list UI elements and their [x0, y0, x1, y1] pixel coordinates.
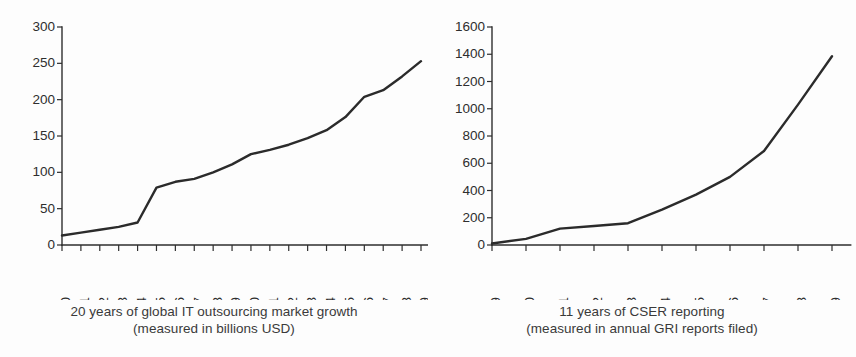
x-tick-label: 2004 — [323, 297, 338, 300]
chart-panel-cser-reporting: 0200400600800100012001400160019992000200… — [428, 0, 856, 357]
y-tick-label: 100 — [32, 164, 55, 179]
x-tick-label: 2005 — [692, 297, 707, 300]
x-tick-label: 1996 — [172, 297, 187, 300]
y-tick-label: 300 — [32, 19, 55, 34]
line-chart-cser-reporting: 0200400600800100012001400160019992000200… — [428, 0, 856, 300]
x-tick-label: 2002 — [590, 297, 605, 300]
y-tick-label: 150 — [32, 128, 55, 143]
x-tick-label: 2006 — [361, 297, 376, 300]
x-tick-label: 2007 — [380, 297, 395, 300]
x-tick-label: 2001 — [556, 297, 571, 300]
x-tick-label: 2000 — [247, 297, 262, 300]
x-tick-label: 1990 — [58, 297, 73, 300]
y-tick-label: 1600 — [455, 19, 485, 34]
figure-two-line-charts: 0501001502002503001990199119921993199419… — [0, 0, 856, 357]
x-tick-label: 1991 — [77, 297, 92, 300]
x-tick-label: 2002 — [285, 297, 300, 300]
x-tick-label: 2006 — [726, 297, 741, 300]
x-tick-label: 2007 — [760, 297, 775, 300]
y-tick-label: 800 — [462, 128, 485, 143]
y-tick-label: 50 — [40, 201, 55, 216]
y-tick-label: 200 — [462, 210, 485, 225]
x-tick-label: 2003 — [624, 297, 639, 300]
y-tick-label: 1400 — [455, 46, 485, 61]
x-tick-label: 2003 — [304, 297, 319, 300]
data-series-line — [492, 56, 832, 243]
x-tick-label: 1993 — [115, 297, 130, 300]
y-tick-label: 600 — [462, 155, 485, 170]
x-tick-label: 1995 — [153, 297, 168, 300]
y-tick-label: 400 — [462, 183, 485, 198]
caption-line-1: 20 years of global IT outsourcing market… — [0, 303, 428, 320]
x-tick-label: 1994 — [134, 297, 149, 300]
x-tick-label: 2009 — [828, 297, 843, 300]
x-tick-label: 2008 — [794, 297, 809, 300]
y-tick-label: 200 — [32, 92, 55, 107]
x-tick-label: 2008 — [399, 297, 414, 300]
x-tick-label: 2001 — [266, 297, 281, 300]
y-tick-label: 250 — [32, 55, 55, 70]
x-tick-label: 2005 — [342, 297, 357, 300]
caption-line-2: (measured in annual GRI reports filed) — [428, 320, 856, 337]
x-tick-label: 1997 — [191, 297, 206, 300]
x-tick-label: 1999 — [488, 297, 503, 300]
caption-cser-reporting: 11 years of CSER reporting (measured in … — [428, 303, 856, 337]
plot-area-cser-reporting: 0200400600800100012001400160019992000200… — [428, 0, 856, 300]
x-tick-label: 1999 — [228, 297, 243, 300]
y-tick-label: 1200 — [455, 74, 485, 89]
caption-line-2: (measured in billions USD) — [0, 320, 428, 337]
line-chart-it-outsourcing: 0501001502002503001990199119921993199419… — [0, 0, 428, 300]
y-tick-label: 1000 — [455, 101, 485, 116]
y-tick-label: 0 — [47, 237, 55, 252]
x-tick-label: 2009 — [417, 297, 428, 300]
chart-panel-it-outsourcing: 0501001502002503001990199119921993199419… — [0, 0, 428, 357]
x-tick-label: 1998 — [210, 297, 225, 300]
x-tick-label: 2000 — [522, 297, 537, 300]
x-tick-label: 2004 — [658, 297, 673, 300]
data-series-line — [62, 61, 421, 235]
y-tick-label: 0 — [477, 237, 485, 252]
caption-it-outsourcing: 20 years of global IT outsourcing market… — [0, 303, 428, 337]
plot-area-it-outsourcing: 0501001502002503001990199119921993199419… — [0, 0, 428, 300]
caption-line-1: 11 years of CSER reporting — [428, 303, 856, 320]
x-tick-label: 1992 — [96, 297, 111, 300]
